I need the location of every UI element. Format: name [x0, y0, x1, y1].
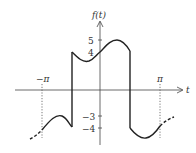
curve-right-extension — [160, 117, 174, 126]
y-axis-label: f(t) — [91, 10, 106, 20]
tick-label-m4: −4 — [82, 124, 96, 134]
x-axis-label: t — [186, 85, 190, 95]
function-plot: t f(t) 5 4 −3 −4 −π π — [0, 0, 196, 153]
tick-label-4: 4 — [88, 48, 94, 58]
curve-right-piece — [130, 126, 160, 138]
tick-label-m3: −3 — [82, 112, 96, 122]
curve-left-extension — [30, 130, 42, 139]
curve-middle-piece — [72, 40, 130, 61]
tick-label-5: 5 — [88, 36, 94, 46]
curve-left-piece — [42, 116, 72, 130]
tick-label-minus-pi: −π — [36, 74, 51, 84]
tick-label-pi: π — [156, 74, 164, 84]
